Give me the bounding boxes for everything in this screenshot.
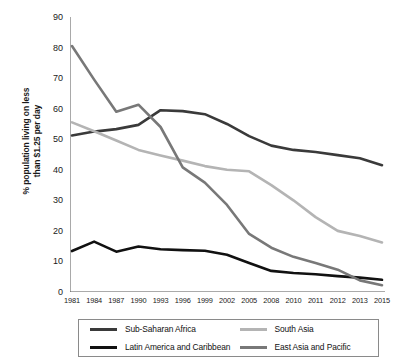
x-axis-tick-labels: 1981198419871990199319961999200220052008… (70, 296, 390, 312)
y-axis-tick-label: 90 (53, 12, 63, 22)
series-line-sub-saharan-africa (72, 110, 382, 165)
x-axis-tick-label: 1999 (197, 296, 213, 305)
y-axis-tick-label: 0 (58, 287, 63, 297)
x-axis-tick-label: 2005 (241, 296, 257, 305)
chart-legend: Sub-Saharan AfricaSouth AsiaLatin Americ… (78, 319, 379, 357)
legend-label: Sub-Saharan Africa (125, 324, 196, 334)
series-line-east-asia-and-pacific (72, 46, 382, 285)
legend-swatch-icon (90, 328, 117, 331)
x-axis-tick-label: 2011 (308, 296, 323, 305)
y-axis-tick-label: 20 (53, 226, 63, 236)
legend-swatch-icon (90, 346, 117, 349)
legend-label: South Asia (275, 324, 314, 334)
x-axis-tick-label: 1981 (64, 296, 80, 305)
y-axis-tick-label: 40 (53, 165, 63, 175)
y-axis-tick-labels: 0102030405060708090 (0, 0, 70, 300)
x-axis-tick-label: 2010 (286, 296, 302, 305)
series-line-latin-america-and-caribbean (72, 242, 382, 280)
y-axis-tick-label: 60 (53, 104, 63, 114)
y-axis-tick-label: 10 (53, 256, 63, 266)
x-axis-tick-label: 2012 (330, 296, 346, 305)
x-axis-tick-label: 2008 (263, 296, 279, 305)
y-axis-tick-label: 80 (53, 43, 63, 53)
legend-label: Latin America and Caribbean (125, 342, 230, 352)
x-axis-tick-label: 1990 (131, 296, 147, 305)
line-chart-svg (70, 17, 388, 292)
x-axis-tick-label: 1993 (153, 296, 169, 305)
plot-area (70, 17, 388, 292)
y-axis-tick-label: 30 (53, 195, 63, 205)
y-axis-tick-label: 50 (53, 134, 63, 144)
x-axis-tick-label: 2002 (219, 296, 235, 305)
legend-label: East Asia and Pacific (275, 342, 351, 352)
legend-item[interactable]: Latin America and Caribbean (79, 342, 229, 352)
legend-item[interactable]: South Asia (229, 324, 379, 334)
x-axis-tick-label: 1987 (108, 296, 124, 305)
legend-swatch-icon (240, 328, 267, 331)
x-axis-tick-label: 1984 (86, 296, 102, 305)
legend-swatch-icon (240, 346, 267, 349)
x-axis-tick-label: 2013 (352, 296, 368, 305)
chart-container: % population living on less than $1.25 p… (0, 0, 396, 362)
y-axis-tick-label: 70 (53, 73, 63, 83)
x-axis-tick-label: 1996 (175, 296, 191, 305)
x-axis-tick-label: 2015 (374, 296, 390, 305)
legend-item[interactable]: Sub-Saharan Africa (79, 324, 229, 334)
legend-item[interactable]: East Asia and Pacific (229, 342, 379, 352)
series-line-south-asia (72, 122, 382, 242)
